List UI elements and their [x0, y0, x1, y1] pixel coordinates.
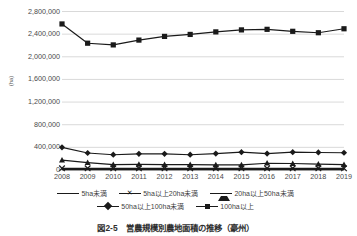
legend-marker-icon: [97, 202, 119, 210]
legend-label: 20ha以上50ha未満: [234, 188, 293, 198]
legend-row-1: 5ha未満✕5ha以上20ha未満20ha以上50ha未満: [0, 188, 351, 198]
x-tick-label: 2008: [48, 173, 76, 181]
legend-marker-icon: [196, 202, 218, 210]
legend-item[interactable]: ✕5ha以上20ha未満: [119, 188, 198, 198]
legend-marker-icon: ✕: [119, 189, 141, 197]
x-tick-label: 2011: [125, 173, 153, 181]
legend-item[interactable]: 5ha未満: [57, 188, 107, 198]
legend-label: 5ha未満: [81, 188, 107, 198]
x-tick-label: 2012: [151, 173, 179, 181]
legend-item[interactable]: 50ha以上100ha未満: [97, 201, 184, 211]
chart-legend: 5ha未満✕5ha以上20ha未満20ha以上50ha未満 50ha以上100h…: [0, 188, 351, 218]
x-tick-label: 2014: [202, 173, 230, 181]
x-tick-label: 2010: [99, 173, 127, 181]
x-tick-label: 2009: [74, 173, 102, 181]
x-tick-label: 2019: [330, 173, 357, 181]
figure-caption: 図2-5 営農規模別農地面積の推移（豪州）: [0, 221, 351, 233]
x-tick-label: 2013: [176, 173, 204, 181]
legend-label: 100ha以上: [220, 201, 253, 211]
legend-row-2: 50ha以上100ha未満100ha以上: [0, 201, 351, 211]
legend-label: 50ha以上100ha未満: [121, 201, 184, 211]
legend-marker-icon: [210, 189, 232, 197]
x-tick-label: 2015: [227, 173, 255, 181]
x-tick-label: 2018: [304, 173, 332, 181]
legend-item[interactable]: 20ha以上50ha未満: [210, 188, 293, 198]
legend-label: 5ha以上20ha未満: [143, 188, 198, 198]
x-tick-label: 2017: [279, 173, 307, 181]
x-tick-label: 2016: [253, 173, 281, 181]
legend-marker-icon: [57, 189, 79, 197]
legend-item[interactable]: 100ha以上: [196, 201, 253, 211]
